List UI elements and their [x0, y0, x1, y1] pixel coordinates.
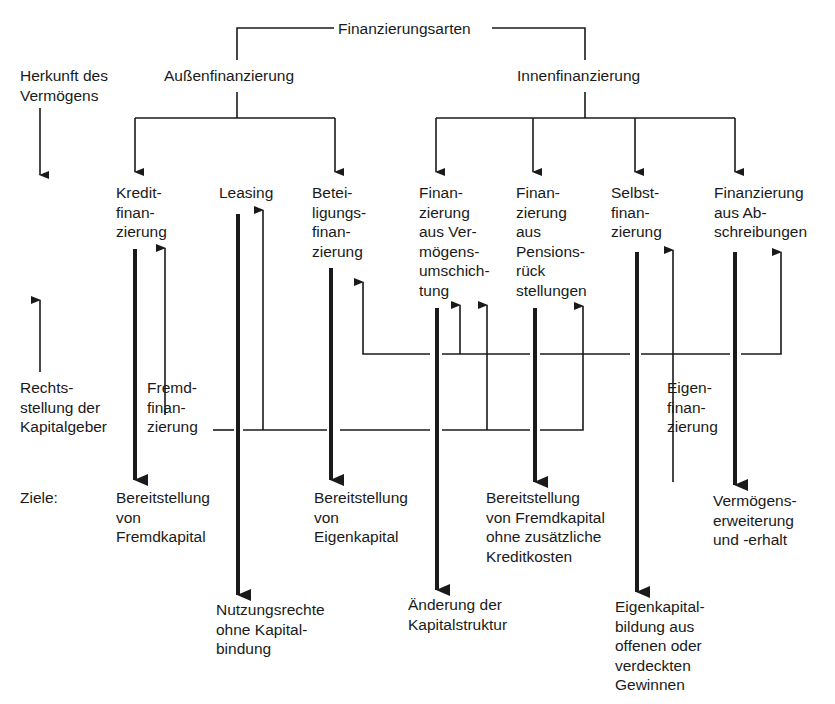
type-kreditfinanzierung: Kredit- finan- zierung: [116, 183, 167, 242]
type-beteiligungsfinanzierung: Betei- ligungs- finan- zierung: [312, 183, 366, 261]
diagram-title: Finanzierungsarten: [334, 19, 475, 39]
financing-types-diagram: Finanzierungsarten Außenfinanzierung Inn…: [0, 0, 835, 704]
type-vermoegensumschichtung: Finan- zierung aus Ver- mögens- umschich…: [419, 183, 490, 300]
legal-status-fremdfinanzierung: Fremd- finan- zierung: [147, 378, 198, 437]
type-abschreibungen: Finanzierung aus Ab- schreibungen: [714, 183, 807, 242]
goal-leasing: Nutzungsrechte ohne Kapital- bindung: [216, 600, 325, 659]
goal-umschichtung: Änderung der Kapitalstruktur: [408, 595, 507, 634]
goal-kredit: Bereitstellung von Fremdkapital: [116, 488, 210, 547]
type-selbstfinanzierung: Selbst- finan- zierung: [611, 183, 662, 242]
branch-aussenfinanzierung: Außenfinanzierung: [164, 66, 294, 86]
type-pensionsrueckstellungen: Finan- zierung aus Pensions- rück stellu…: [516, 183, 587, 300]
goal-abschreibung: Vermögens- erweiterung und -erhalt: [713, 491, 797, 550]
goal-selbst: Eigenkapital- bildung aus offenen oder v…: [615, 597, 705, 695]
legal-status-eigenfinanzierung: Eigen- finan- zierung: [667, 378, 718, 437]
row-label-herkunft: Herkunft des Vermögens: [20, 66, 108, 105]
row-label-rechtsstellung: Rechts- stellung der Kapitalgeber: [20, 378, 107, 437]
root-connector-right: [492, 28, 585, 60]
type-leasing: Leasing: [219, 183, 273, 203]
goal-pension: Bereitstellung von Fremdkapital ohne zus…: [486, 488, 605, 566]
root-connector-left: [237, 28, 334, 60]
goal-beteiligung: Bereitstellung von Eigenkapital: [314, 488, 408, 547]
branch-innenfinanzierung: Innenfinanzierung: [517, 66, 640, 86]
row-label-ziele: Ziele:: [20, 488, 58, 508]
